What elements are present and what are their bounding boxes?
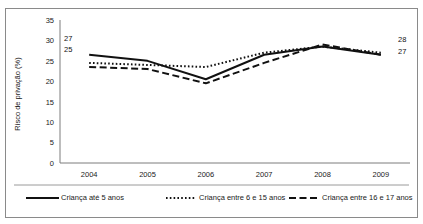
annotation-right-bottom: 27 bbox=[398, 47, 406, 56]
y-tick-label: 5 bbox=[50, 138, 54, 147]
x-axis-ticks: 200420052006200720082009 bbox=[81, 170, 389, 179]
y-axis-title: Risco de privação (%) bbox=[13, 57, 22, 131]
x-tick-label: 2007 bbox=[256, 170, 273, 179]
y-tick-label: 0 bbox=[50, 159, 54, 168]
x-tick-label: 2004 bbox=[81, 170, 98, 179]
series-line-crianca-6-15-anos bbox=[89, 47, 381, 67]
chart-legend: Criança até 5 anos Criança entre 6 e 15 … bbox=[26, 193, 413, 202]
y-tick-label: 10 bbox=[46, 118, 54, 127]
y-axis-ticks: 35 30 25 20 15 10 5 0 bbox=[46, 16, 54, 168]
x-tick-label: 2009 bbox=[372, 170, 389, 179]
series-line-crianca-16-17-anos bbox=[89, 45, 381, 84]
x-tick-label: 2006 bbox=[197, 170, 214, 179]
chart-frame: Risco de privação (%) 35 30 25 20 15 10 … bbox=[5, 8, 418, 218]
x-tick-label: 2008 bbox=[314, 170, 331, 179]
series-line-crianca-ate-5-anos bbox=[89, 47, 381, 80]
legend-label-2: Criança entre 16 e 17 anos bbox=[322, 193, 413, 202]
annotation-left-bottom: 25 bbox=[64, 45, 72, 54]
legend-label-0: Criança até 5 anos bbox=[61, 193, 124, 202]
y-tick-label: 20 bbox=[46, 77, 54, 86]
annotation-left-top: 27 bbox=[64, 34, 72, 43]
x-tick-label: 2005 bbox=[139, 170, 156, 179]
y-tick-label: 25 bbox=[46, 57, 54, 66]
y-tick-label: 35 bbox=[46, 16, 54, 25]
y-tick-label: 30 bbox=[46, 36, 54, 45]
line-chart: Risco de privação (%) 35 30 25 20 15 10 … bbox=[6, 9, 417, 217]
annotation-right-top: 28 bbox=[398, 35, 406, 44]
y-tick-label: 15 bbox=[46, 98, 54, 107]
legend-label-1: Criança entre 6 e 15 anos bbox=[199, 193, 286, 202]
